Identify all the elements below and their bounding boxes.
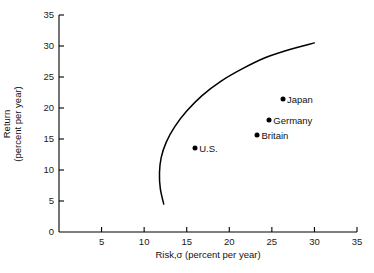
y-tick-label: 0 (49, 227, 54, 237)
y-tick-marks (59, 15, 64, 201)
x-tick-label: 10 (139, 237, 150, 247)
y-tick-label: 5 (49, 196, 54, 206)
x-tick-label: 15 (181, 237, 192, 247)
data-point-dot (255, 132, 260, 137)
x-tick-marks (102, 227, 357, 232)
y-axis-title-line-2: (percent per year) (12, 86, 23, 162)
x-tick-label: 25 (267, 237, 278, 247)
y-tick-label: 15 (43, 134, 54, 144)
y-axis-title: Return (percent per year) (1, 86, 23, 162)
data-point-label: Germany (273, 117, 312, 127)
data-point-dot (280, 96, 285, 101)
y-axis-title-line-1: Return (1, 86, 12, 162)
y-tick-label: 20 (43, 103, 54, 113)
data-point-label: Japan (287, 95, 313, 105)
x-axis-title: Risk,σ (percent per year) (155, 249, 260, 260)
data-point-label: Britain (261, 131, 288, 141)
y-tick-label: 10 (43, 165, 54, 175)
y-tick-label: 35 (43, 10, 54, 20)
efficient-frontier-chart: 5101520253035 05101520253035 U.S.Britain… (0, 0, 374, 273)
data-point-dot (267, 118, 272, 123)
chart-canvas (0, 0, 374, 273)
data-point-dot (193, 146, 198, 151)
x-tick-label: 20 (224, 237, 235, 247)
x-tick-label: 5 (99, 237, 104, 247)
x-tick-label: 30 (309, 237, 320, 247)
data-point-label: U.S. (199, 145, 217, 155)
x-tick-label: 35 (352, 237, 363, 247)
y-tick-label: 25 (43, 72, 54, 82)
y-tick-label: 30 (43, 41, 54, 51)
